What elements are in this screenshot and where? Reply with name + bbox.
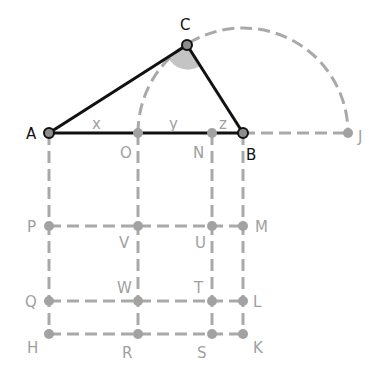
label-segment-z: z (219, 115, 227, 133)
point-v (133, 221, 143, 231)
label-v: V (119, 234, 130, 252)
label-b: B (246, 146, 256, 164)
point-m (238, 221, 248, 231)
label-q: Q (25, 293, 37, 311)
point-l (238, 296, 248, 306)
point-q (44, 296, 54, 306)
point-h (44, 329, 54, 339)
label-segment-x: x (92, 115, 101, 133)
label-t: T (193, 279, 204, 297)
label-k: K (253, 339, 264, 357)
geometry-diagram: A B C x y z O N J P V U M Q W T L H R S … (0, 0, 379, 379)
segment-bc (187, 45, 243, 133)
label-h: H (27, 339, 38, 357)
label-m: M (255, 218, 268, 236)
segment-ac (49, 45, 187, 133)
label-s: S (197, 344, 207, 362)
point-k (238, 329, 248, 339)
label-p: P (27, 218, 36, 236)
label-o: O (120, 144, 132, 162)
point-w (133, 296, 143, 306)
point-s (207, 329, 217, 339)
point-j (343, 128, 353, 138)
point-u (207, 221, 217, 231)
point-n (207, 128, 217, 138)
label-a: A (26, 125, 37, 143)
point-p (44, 221, 54, 231)
label-c: C (180, 16, 190, 34)
label-l: L (253, 293, 262, 311)
label-r: R (122, 344, 132, 362)
label-segment-y: y (169, 115, 178, 133)
point-c (182, 40, 192, 50)
label-j: J (357, 128, 362, 146)
point-b (238, 128, 248, 138)
point-t (207, 296, 217, 306)
label-u: U (195, 234, 206, 252)
label-n: N (193, 144, 204, 162)
point-r (133, 329, 143, 339)
point-a (44, 128, 54, 138)
label-w: W (117, 279, 132, 297)
point-o (133, 128, 143, 138)
